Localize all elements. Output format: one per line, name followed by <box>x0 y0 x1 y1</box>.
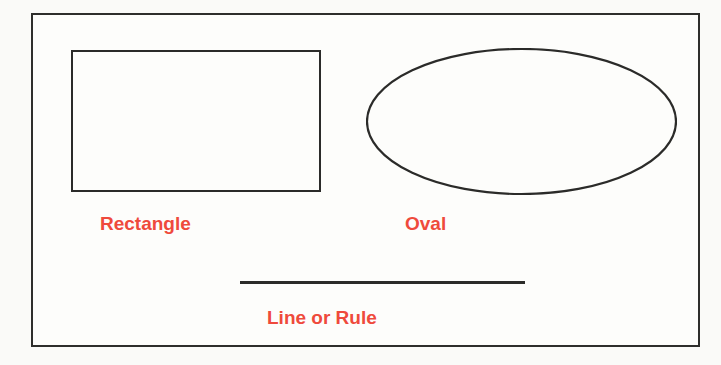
rectangle-label: Rectangle <box>100 213 191 235</box>
oval-outline <box>367 49 676 194</box>
outer-frame-border: Rectangle Oval Line or Rule <box>31 13 700 347</box>
oval-shape[interactable] <box>366 48 677 195</box>
rectangle-shape[interactable] <box>71 50 321 192</box>
line-rule-label: Line or Rule <box>267 307 377 329</box>
oval-svg <box>366 48 677 195</box>
oval-label: Oval <box>405 213 446 235</box>
line-rule-shape[interactable] <box>240 281 525 284</box>
diagram-canvas: Rectangle Oval Line or Rule <box>0 0 721 365</box>
